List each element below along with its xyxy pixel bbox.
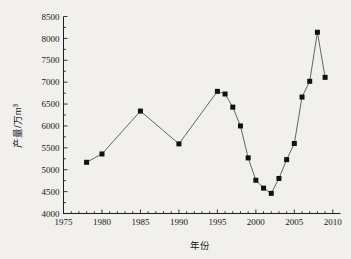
data-point-marker bbox=[215, 89, 220, 94]
x-tick-label: 1990 bbox=[170, 217, 189, 227]
data-point-marker bbox=[230, 105, 235, 110]
y-tick-label: 7500 bbox=[42, 55, 61, 65]
chart-figure: 4000450050005500600065007000750080008500… bbox=[0, 0, 351, 259]
data-point-marker bbox=[284, 157, 289, 162]
y-tick-label: 5000 bbox=[42, 165, 61, 175]
x-tick-label: 2000 bbox=[247, 217, 266, 227]
y-tick-label: 8500 bbox=[42, 12, 61, 22]
data-point-marker bbox=[261, 186, 266, 191]
svg-text:产量/万m3: 产量/万m3 bbox=[12, 103, 23, 148]
data-point-marker bbox=[307, 79, 312, 84]
data-point-marker bbox=[176, 141, 181, 146]
y-tick-label: 8000 bbox=[42, 34, 61, 44]
x-tick-label: 1985 bbox=[131, 217, 150, 227]
data-point-marker bbox=[292, 141, 297, 146]
x-tick-label: 1975 bbox=[55, 217, 74, 227]
y-tick-label: 6000 bbox=[42, 121, 61, 131]
y-tick-label: 5500 bbox=[42, 143, 61, 153]
data-point-marker bbox=[323, 75, 328, 80]
x-tick-label: 2010 bbox=[324, 217, 343, 227]
svg-text:年份: 年份 bbox=[190, 240, 210, 251]
x-tick-label: 1980 bbox=[93, 217, 112, 227]
x-tick-label: 1995 bbox=[208, 217, 227, 227]
y-tick-label: 6500 bbox=[42, 99, 61, 109]
data-point-marker bbox=[223, 91, 228, 96]
data-point-marker bbox=[246, 155, 251, 160]
data-point-marker bbox=[276, 176, 281, 181]
data-point-marker bbox=[300, 95, 305, 100]
data-point-marker bbox=[99, 151, 104, 156]
x-tick-label: 2005 bbox=[285, 217, 304, 227]
y-tick-label: 4500 bbox=[42, 187, 61, 197]
data-point-marker bbox=[269, 191, 274, 196]
y-tick-label: 7000 bbox=[42, 77, 61, 87]
data-point-marker bbox=[138, 109, 143, 114]
data-point-marker bbox=[315, 30, 320, 35]
y-axis-title: 产量/万m3 bbox=[12, 103, 23, 148]
x-axis-title: 年份 bbox=[190, 240, 210, 251]
line-chart: 4000450050005500600065007000750080008500… bbox=[0, 0, 351, 259]
data-point-marker bbox=[253, 178, 258, 183]
data-point-marker bbox=[84, 160, 89, 165]
data-point-marker bbox=[238, 123, 243, 128]
